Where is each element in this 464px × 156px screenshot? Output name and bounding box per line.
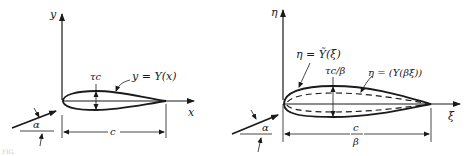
chord-label: c <box>110 126 116 137</box>
figure-caption: FIG. <box>2 148 15 155</box>
left-panel: y x τc y = Y(x) c α <box>12 8 195 146</box>
outer-airfoil-profile <box>284 86 431 117</box>
eta-axis-label: η <box>271 6 278 19</box>
inner-curve-label: η = (Y(βξ)) <box>368 67 422 78</box>
angle-label: α <box>262 122 269 133</box>
chord-label-numerator: c <box>353 122 359 133</box>
angle-label: α <box>33 119 40 130</box>
diagram-canvas: y x τc y = Y(x) c α η ξ τc/β η = Ỹ(ξ) <box>0 0 464 156</box>
xi-axis-label: ξ <box>448 110 455 123</box>
x-axis-label: x <box>188 106 195 119</box>
y-axis-label: y <box>49 8 57 21</box>
angle-tick-bottom <box>258 138 261 152</box>
thickness-label: τc <box>90 71 102 82</box>
angle-tick-top <box>34 108 39 117</box>
angle-tick-top <box>251 110 256 119</box>
outer-curve-leader <box>299 63 310 87</box>
curve-leader <box>116 80 130 91</box>
right-panel: η ξ τc/β η = Ỹ(ξ) η = (Y(βξ)) c β α <box>232 6 460 152</box>
outer-curve-label: η = Ỹ(ξ) <box>296 47 341 61</box>
thickness-label: τc/β <box>325 65 346 76</box>
angle-tick-bottom <box>40 134 42 146</box>
chord-label-denominator: β <box>352 136 359 147</box>
curve-label: y = Y(x) <box>131 70 176 83</box>
